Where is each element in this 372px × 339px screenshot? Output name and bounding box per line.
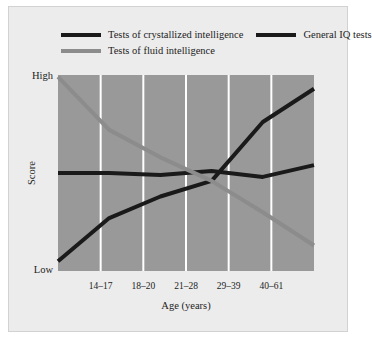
y-axis-label-low: Low: [34, 264, 54, 275]
y-axis-label-high: High: [32, 70, 54, 81]
x-axis-tick-label: 21–28: [174, 281, 198, 291]
x-axis-tick-label: 14–17: [89, 281, 113, 291]
y-axis-title: Score: [26, 161, 37, 185]
line-chart-svg: High Low Score 14–1718–2021–2829–3940–61…: [9, 7, 349, 333]
x-axis-tick-label: 40–61: [259, 281, 283, 291]
x-axis-tick-labels: 14–1718–2021–2829–3940–61: [89, 281, 284, 291]
x-axis-title: Age (years): [161, 300, 211, 312]
plot-area-wrapper: High Low Score 14–1718–2021–2829–3940–61…: [9, 7, 349, 333]
x-axis-tick-label: 18–20: [131, 281, 155, 291]
figure-card: Tests of crystallized intelligence Gener…: [8, 6, 348, 332]
x-axis-tick-label: 29–39: [217, 281, 241, 291]
